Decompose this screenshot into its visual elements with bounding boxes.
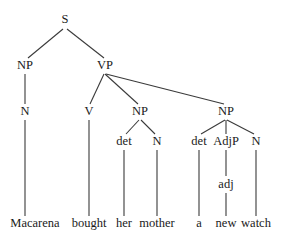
word-w6: new xyxy=(216,216,237,230)
edge-NP2-N2 xyxy=(141,120,155,134)
node-n1: N xyxy=(20,104,29,118)
word-w1: Macarena xyxy=(10,216,60,230)
node-n3: N xyxy=(251,134,260,148)
node-adj: adj xyxy=(218,177,233,191)
node-np1: NP xyxy=(17,58,33,72)
node-n2: N xyxy=(152,134,161,148)
node-np2: NP xyxy=(132,104,148,118)
edge-S-NP1 xyxy=(28,29,63,58)
node-vp: VP xyxy=(97,58,113,72)
word-w2: bought xyxy=(72,216,107,230)
node-v: V xyxy=(84,104,93,118)
node-adjp: AdjP xyxy=(213,134,239,148)
word-w7: watch xyxy=(241,216,272,230)
word-w3: her xyxy=(116,216,133,230)
word-w5: a xyxy=(196,216,202,230)
node-det1: det xyxy=(116,134,132,148)
node-np3: NP xyxy=(218,104,234,118)
edge-NP3-N3 xyxy=(227,120,254,134)
edge-NP2-det1 xyxy=(126,120,139,134)
syntax-tree-diagram: SNPVPNVNPNPdetNdetAdjPNadjMacarenabought… xyxy=(0,0,290,243)
edge-NP3-det2 xyxy=(201,120,225,134)
node-det2: det xyxy=(191,134,207,148)
tree-nodes: SNPVPNVNPNPdetNdetAdjPNadjMacarenabought… xyxy=(10,12,271,230)
edge-VP-V xyxy=(90,74,104,104)
edge-S-VP xyxy=(67,29,104,58)
word-w4: mother xyxy=(139,216,175,230)
edge-VP-NP3 xyxy=(106,74,224,104)
node-s: S xyxy=(62,12,69,26)
